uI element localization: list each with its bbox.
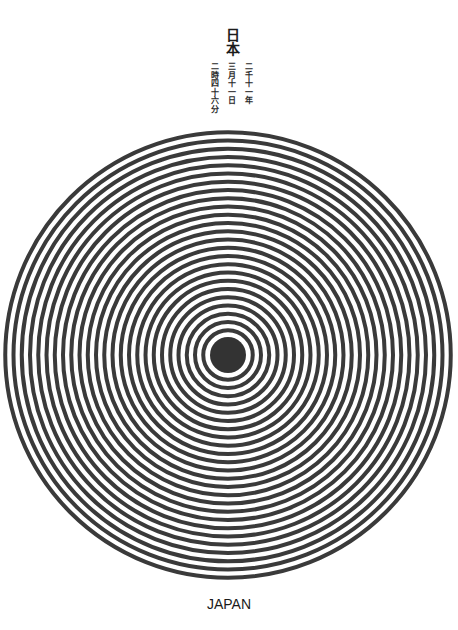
concentric-rings-graphic — [0, 0, 458, 630]
center-dot — [210, 337, 246, 373]
footer-label-japan: JAPAN — [0, 596, 458, 612]
